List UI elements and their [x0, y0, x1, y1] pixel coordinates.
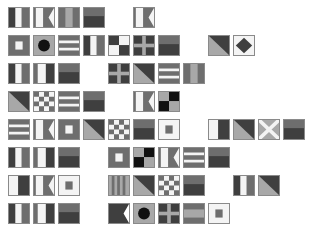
flag-cross-icon [158, 203, 180, 224]
flag-swallow-icon [33, 7, 55, 28]
flag-square-in-icon [108, 147, 130, 168]
flag-square-in-icon [8, 35, 30, 56]
flag-vtri-icon [83, 35, 105, 56]
flag-diag-icon [258, 175, 280, 196]
flag-saltire-icon [258, 119, 280, 140]
flag-hstripes-icon [58, 91, 80, 112]
flag-hsplit-icon [83, 91, 105, 112]
flag-hsplit-icon [208, 147, 230, 168]
flag-half-white-icon [208, 119, 230, 140]
flag-diag-icon [233, 119, 255, 140]
flag-hsplit-icon [83, 7, 105, 28]
flag-quarters-icon [108, 35, 130, 56]
flag-half-white-icon [8, 175, 30, 196]
flag-hstripes-icon [158, 63, 180, 84]
flag-vtri-white-icon [33, 63, 55, 84]
flag-diamond-icon [233, 35, 255, 56]
flag-hsplit-icon [58, 203, 80, 224]
flag-swallow-icon [133, 7, 155, 28]
flag-vtri-white-icon [33, 203, 55, 224]
flag-vtri-icon [8, 147, 30, 168]
flag-vtri-icon [233, 175, 255, 196]
flag-vstripes-icon [108, 175, 130, 196]
flag-quarters-black-icon [158, 91, 180, 112]
flag-checker-icon [33, 91, 55, 112]
flag-hsplit-icon [133, 119, 155, 140]
flag-square-in-white-icon [158, 119, 180, 140]
flag-hstripes-icon [58, 35, 80, 56]
flag-vtri-white-icon [33, 147, 55, 168]
flag-square-in-white-icon [58, 175, 80, 196]
flag-checker-icon [108, 119, 130, 140]
flag-hstripes-icon [8, 119, 30, 140]
flag-vtri-light-icon [183, 63, 205, 84]
flag-hband-icon [183, 203, 205, 224]
flag-vtri-icon [8, 7, 30, 28]
flag-swallow-dark-icon [108, 203, 130, 224]
flag-hsplit-icon [183, 175, 205, 196]
flag-vtri-icon [8, 63, 30, 84]
flag-swallow-icon [133, 91, 155, 112]
flag-ball-icon [33, 35, 55, 56]
flag-cross-icon [108, 63, 130, 84]
flag-square-in-white-icon [208, 203, 230, 224]
flag-ball-icon [133, 203, 155, 224]
flag-cross-icon [133, 35, 155, 56]
flag-quarters-black-icon [133, 147, 155, 168]
flag-swallow-icon [158, 147, 180, 168]
flag-hsplit-icon [58, 147, 80, 168]
flag-diag-icon [133, 175, 155, 196]
flag-hsplit-icon [58, 63, 80, 84]
flag-checker-icon [158, 175, 180, 196]
flag-diag-icon [208, 35, 230, 56]
flag-square-in-icon [58, 119, 80, 140]
flag-hsplit-icon [283, 119, 305, 140]
flag-hsplit-icon [158, 35, 180, 56]
flag-vtri-icon [8, 203, 30, 224]
flag-swallow-icon [33, 119, 55, 140]
flag-diag-icon [8, 91, 30, 112]
flag-diag-icon [133, 63, 155, 84]
flag-diag-icon [83, 119, 105, 140]
flag-vtri-light-icon [58, 7, 80, 28]
flag-hstripes-icon [183, 147, 205, 168]
flag-swallow-icon [33, 175, 55, 196]
